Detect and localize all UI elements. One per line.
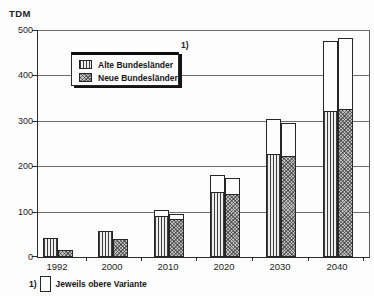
- legend-swatch-stripes-icon: [79, 60, 92, 69]
- legend-item-alte: Alte Bundesländer: [79, 58, 178, 71]
- x-tick-mark-0: [86, 257, 87, 261]
- bar-alte-2020-upper-variant: [210, 175, 225, 193]
- bar-alte-2040-upper-variant: [323, 41, 338, 112]
- legend-swatch-crosshatch-icon: [79, 73, 92, 82]
- bar-neue-2020: [225, 194, 240, 257]
- x-tick-label-2030: 2030: [269, 261, 290, 272]
- bar-neue-2030: [281, 156, 296, 257]
- x-tick-mark-2: [196, 257, 197, 261]
- y-tick-label-300: 300: [7, 116, 33, 126]
- legend-label-neue: Neue Bundesländer: [98, 73, 178, 83]
- x-tick-label-2000: 2000: [101, 261, 122, 272]
- upper-variant-box-icon: [40, 276, 51, 292]
- x-tick-mark-1: [141, 257, 142, 261]
- bar-neue-2010-upper-variant: [169, 214, 184, 220]
- chart-figure: TDM Alte Bundesländer Neue Bundesländer …: [0, 0, 374, 296]
- y-tick-label-500: 500: [7, 25, 33, 35]
- gridline-200: [38, 166, 369, 167]
- bar-neue-2040-upper-variant: [338, 38, 353, 110]
- legend-footnote-marker: 1): [181, 40, 189, 50]
- bar-alte-2000: [98, 231, 113, 257]
- bar-neue-2030-upper-variant: [281, 123, 296, 158]
- x-tick-mark-3: [252, 257, 253, 261]
- bar-alte-2010: [154, 216, 169, 257]
- x-tick-label-1992: 1992: [46, 261, 67, 272]
- y-tick-label-200: 200: [7, 161, 33, 171]
- footnote-marker: 1): [29, 279, 37, 289]
- bar-alte-2010-upper-variant: [154, 210, 169, 217]
- gridline-100: [38, 212, 369, 213]
- bar-alte-2040: [323, 111, 338, 257]
- y-axis-unit-label: TDM: [9, 8, 31, 19]
- bar-alte-2030-upper-variant: [266, 119, 281, 155]
- y-tick-label-0: 0: [7, 252, 33, 262]
- bar-neue-1992: [58, 250, 73, 257]
- legend-item-neue: Neue Bundesländer: [79, 71, 178, 84]
- x-tick-mark-5: [363, 257, 364, 261]
- legend-label-alte: Alte Bundesländer: [98, 60, 173, 70]
- bar-neue-2000: [113, 239, 128, 257]
- legend: Alte Bundesländer Neue Bundesländer: [71, 52, 179, 86]
- gridline-500: [38, 30, 369, 31]
- bar-alte-2020: [210, 192, 225, 257]
- bar-neue-2020-upper-variant: [225, 178, 240, 195]
- x-tick-mark-4: [308, 257, 309, 261]
- x-tick-label-2040: 2040: [326, 261, 347, 272]
- bar-neue-2010: [169, 219, 184, 257]
- y-tick-label-100: 100: [7, 207, 33, 217]
- bar-alte-1992: [43, 238, 58, 258]
- bar-alte-2030: [266, 154, 281, 258]
- x-tick-label-2020: 2020: [213, 261, 234, 272]
- x-tick-label-2010: 2010: [157, 261, 178, 272]
- gridline-300: [38, 121, 369, 122]
- bar-neue-2040: [338, 109, 353, 258]
- footnote: 1) Jeweils obere Variante: [29, 276, 147, 292]
- y-tick-label-400: 400: [7, 70, 33, 80]
- footnote-text: Jeweils obere Variante: [56, 279, 147, 289]
